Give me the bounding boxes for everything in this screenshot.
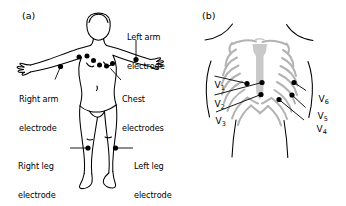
chest-electrodes-label: Chest electrodes bbox=[122, 76, 164, 153]
ecg-electrode-placement-figure: (a) (b) Right arm electrode Left arm ele… bbox=[0, 0, 346, 206]
precordial-electrode-dot-v2 bbox=[259, 80, 264, 85]
chest-electrode-dot-1 bbox=[77, 55, 82, 60]
right-arm-electrode-dot bbox=[58, 64, 63, 69]
right-leg-electrode-label-line2: electrode bbox=[18, 191, 56, 201]
left-arm-electrode-label-line2: electrode bbox=[127, 62, 165, 72]
chest-electrode-dot-4 bbox=[97, 63, 102, 68]
chest-electrode-dot-3 bbox=[91, 58, 96, 63]
left-arm-electrode-label-line1: Left arm bbox=[127, 33, 165, 43]
chest-electrodes-label-line2: electrodes bbox=[122, 124, 164, 134]
chest-electrodes-label-line1: Chest bbox=[122, 95, 164, 105]
precordial-electrode-dot-v1 bbox=[244, 81, 249, 86]
panel-b-tag: (b) bbox=[202, 10, 215, 21]
lead-label-v6-sub: 6 bbox=[325, 98, 329, 106]
panel-b-vertebra-hint bbox=[255, 39, 265, 40]
lead-label-v3: V3 bbox=[204, 106, 226, 136]
panel-a-tag: (a) bbox=[22, 10, 35, 21]
right-arm-electrode-label-line1: Right arm bbox=[19, 95, 58, 105]
panel-b-sternum bbox=[253, 44, 268, 100]
lead-label-v3-sub: 3 bbox=[222, 120, 226, 128]
precordial-electrode-dot-v4 bbox=[276, 97, 281, 102]
lead-label-v6: V6 bbox=[307, 84, 329, 114]
precordial-electrode-dot-v3 bbox=[258, 92, 263, 97]
chest-electrode-dot-6 bbox=[110, 61, 115, 66]
lead-label-v6-base: V bbox=[318, 94, 324, 104]
right-leg-electrode-label-line1: Right leg bbox=[18, 162, 56, 172]
right-leg-electrode-dot bbox=[85, 145, 90, 150]
chest-electrode-dot-5 bbox=[104, 64, 109, 69]
right-leg-electrode-label: Right leg electrode bbox=[18, 143, 56, 206]
lead-label-v3-base: V bbox=[215, 116, 221, 126]
chest-electrode-dot-2 bbox=[85, 54, 90, 59]
left-leg-electrode-label: Left leg electrode bbox=[134, 143, 172, 206]
precordial-electrode-dot-v6 bbox=[291, 80, 296, 85]
left-leg-electrode-label-line1: Left leg bbox=[134, 162, 172, 172]
precordial-electrode-dot-v5 bbox=[289, 92, 294, 97]
left-leg-electrode-label-line2: electrode bbox=[134, 191, 172, 201]
lead-label-v5-sub: 5 bbox=[324, 115, 328, 123]
left-leg-electrode-dot bbox=[113, 145, 118, 150]
right-arm-electrode-label-line2: electrode bbox=[19, 124, 58, 134]
right-arm-electrode-label: Right arm electrode bbox=[19, 76, 58, 153]
